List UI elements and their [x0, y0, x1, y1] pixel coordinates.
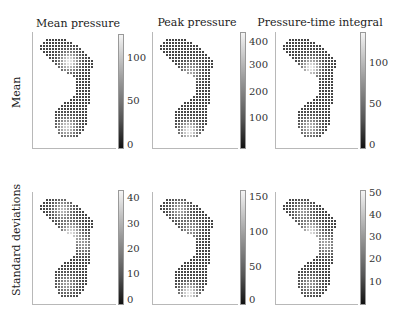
colorbar-tick-label: 0 [127, 140, 133, 150]
colorbar-tick-label: 30 [369, 232, 382, 242]
column-title-pressure-time-integral: Pressure-time integral [257, 16, 382, 29]
colorbar-tick-label: 20 [127, 244, 140, 254]
colorbar-tick-label: 50 [127, 96, 140, 106]
colorbar-tick-label: 0 [127, 295, 133, 305]
colorbar [360, 190, 366, 305]
colorbar-tick-label: 100 [249, 227, 268, 237]
colorbar-tick-label: 200 [249, 87, 268, 97]
colorbar-tick-label: 10 [369, 277, 382, 287]
colorbar-tick-label: 0 [249, 295, 255, 305]
colorbar-tick-label: 50 [369, 188, 382, 198]
colorbar-tick-label: 400 [249, 37, 268, 47]
colorbar-tick-label: 100 [369, 58, 388, 68]
column-title-peak-pressure: Peak pressure [157, 16, 236, 29]
colorbar-tick-label: 50 [369, 99, 382, 109]
colorbar-tick-label: 0 [369, 140, 375, 150]
column-title-mean-pressure: Mean pressure [36, 17, 120, 30]
colorbar [240, 32, 246, 149]
colorbar-tick-label: 50 [249, 262, 262, 272]
colorbar-tick-label: 150 [249, 192, 268, 202]
row-label-std: Standard deviations [10, 184, 23, 296]
colorbar [118, 190, 124, 305]
colorbar-tick-label: 10 [127, 269, 140, 279]
row-label-mean: Mean [10, 77, 23, 108]
colorbar-tick-label: 300 [249, 60, 268, 70]
colorbar [118, 34, 124, 149]
colorbar-tick-label: 20 [369, 254, 382, 264]
colorbar [240, 190, 246, 305]
colorbar [360, 32, 366, 149]
colorbar-tick-label: 40 [369, 210, 382, 220]
colorbar-tick-label: 100 [249, 113, 268, 123]
colorbar-tick-label: 40 [127, 193, 140, 203]
colorbar-tick-label: 100 [127, 53, 146, 63]
colorbar-tick-label: 30 [127, 219, 140, 229]
